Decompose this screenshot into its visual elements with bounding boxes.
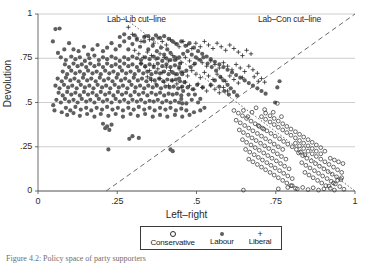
series-labour-points <box>51 26 282 153</box>
x-tick-label: 0 <box>18 196 58 206</box>
y-axis-title: Devolution <box>2 39 13 129</box>
scatter-plot-canvas <box>0 0 373 264</box>
axis-ticks <box>35 14 355 194</box>
legend-item-labour: Labour <box>210 231 234 246</box>
legend-label-liberal: Liberal <box>249 238 272 246</box>
axis-lines <box>38 14 355 191</box>
lab-con-cut-line-label: Lab–Con cut–line <box>258 14 321 24</box>
open-circle-icon <box>170 231 176 237</box>
x-tick-label: 1 <box>335 196 373 206</box>
y-tick-label: 1 <box>0 8 32 18</box>
legend-label-labour: Labour <box>210 238 234 246</box>
legend-label-conservative: Conservative <box>151 239 195 247</box>
series-conservative-points <box>232 101 346 192</box>
y-tick-label: .25 <box>0 141 32 151</box>
x-tick-label: .25 <box>97 196 137 206</box>
plus-icon: + <box>257 231 262 237</box>
figure-container: 0.25.5.751 0.25.5.751 Devolution Left–ri… <box>0 0 373 264</box>
x-tick-label: .5 <box>177 196 217 206</box>
figure-caption: Figure 4.2: Policy space of party suppor… <box>6 254 306 263</box>
cut-lines <box>106 14 355 191</box>
series-liberal-points <box>126 25 267 95</box>
legend-item-liberal: + Liberal <box>249 231 272 246</box>
legend-item-conservative: Conservative <box>151 230 195 247</box>
lab-lib-cut-line-label: Lab–Lib cut–line <box>107 14 166 24</box>
x-tick-label: .75 <box>256 196 296 206</box>
legend: Conservative Labour + Liberal <box>140 226 282 250</box>
x-axis-title: Left–right <box>0 209 373 220</box>
filled-circle-icon <box>220 232 224 236</box>
y-tick-label: 0 <box>0 185 32 195</box>
gridlines <box>38 14 355 191</box>
